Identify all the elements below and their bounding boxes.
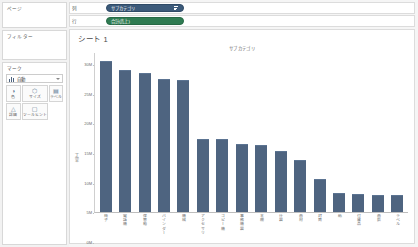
- x-label-slot: 画材: [290, 214, 310, 243]
- bar-mark[interactable]: [197, 139, 209, 212]
- bar-slot: [349, 53, 368, 212]
- bar-mark[interactable]: [391, 195, 403, 212]
- left-cards-panel: ページ フィルター マーク 自動 ◑ 色 ⬡ サイズ: [0, 0, 69, 247]
- bar-slot: [193, 53, 212, 212]
- detail-icon: △: [11, 106, 16, 112]
- worksheet-canvas[interactable]: シート 1 サブカテゴリ 売上 30M25M20M15M10M5M0M 椅子電話…: [69, 29, 415, 244]
- x-axis-labels: 椅子電話機保管箱バインダー機械アクセサリコピー機事務機器本棚什器画材封筒紙付属品…: [94, 213, 408, 243]
- pill-subcategory-label: サブカテゴリ: [111, 5, 171, 11]
- x-axis-tick-label[interactable]: 保管箱: [142, 214, 146, 227]
- bar-slot: [232, 53, 251, 212]
- marks-button-tooltip-label: ツールヒント: [23, 113, 47, 117]
- bar-slot: [388, 53, 407, 212]
- x-axis-tick-label[interactable]: 封筒: [317, 214, 321, 222]
- rows-shelf[interactable]: 行 合計(売上): [69, 15, 415, 27]
- x-axis-tick-label[interactable]: 紙: [337, 214, 341, 218]
- bar-mark[interactable]: [139, 73, 151, 212]
- marks-button-detail-label: 詳細: [9, 113, 17, 117]
- marks-button-tooltip[interactable]: ▢ ツールヒント: [22, 103, 48, 120]
- columns-shelf-label: 列: [72, 5, 106, 11]
- worksheet-area: 列 サブカテゴリ 行 合計(売上) シート 1 サブカテゴリ 売上 30M25M…: [69, 0, 418, 247]
- bar-mark[interactable]: [216, 139, 228, 212]
- bar-mark[interactable]: [333, 193, 345, 212]
- size-icon: ⬡: [32, 88, 37, 94]
- x-label-slot: 機械: [173, 214, 193, 243]
- x-axis-tick-label[interactable]: 什器: [278, 214, 282, 222]
- x-label-slot: 什器: [271, 214, 291, 243]
- marks-button-color-label: 色: [11, 95, 15, 99]
- bar-mark[interactable]: [177, 80, 189, 212]
- x-axis-tick-label[interactable]: ラベル: [395, 214, 399, 227]
- columns-shelf[interactable]: 列 サブカテゴリ: [69, 2, 415, 14]
- tooltip-icon: ▢: [32, 106, 38, 112]
- bar-mark[interactable]: [255, 145, 267, 212]
- x-label-slot: 椅子: [95, 214, 115, 243]
- bar-mark[interactable]: [158, 79, 170, 212]
- pages-card-title: ページ: [3, 3, 66, 13]
- y-axis-tick: 20M: [84, 122, 92, 126]
- x-label-slot: ラベル: [388, 214, 408, 243]
- marks-button-detail[interactable]: △ 詳細: [6, 103, 21, 120]
- filters-card[interactable]: フィルター: [2, 30, 67, 60]
- x-axis-tick-label[interactable]: 事務機器: [239, 214, 243, 231]
- bar-slot: [329, 53, 348, 212]
- bar-mark[interactable]: [294, 160, 306, 212]
- pill-sum-sales[interactable]: 合計(売上): [106, 17, 184, 25]
- column-field-header: サブカテゴリ: [70, 46, 414, 53]
- x-axis-tick-label[interactable]: 機械: [181, 214, 185, 222]
- x-label-slot: 画鋲: [368, 214, 388, 243]
- bar-slot: [290, 53, 309, 212]
- x-axis-tick-label[interactable]: 椅子: [103, 214, 107, 222]
- x-label-slot: バインダー: [154, 214, 174, 243]
- marks-button-size-label: サイズ: [29, 95, 41, 99]
- marks-button-label-label: ラベル: [50, 95, 62, 99]
- x-axis-tick-label[interactable]: 本棚: [259, 214, 263, 222]
- bar-mark[interactable]: [236, 144, 248, 212]
- y-axis-tick: 30M: [84, 63, 92, 67]
- x-axis-tick-label[interactable]: 画鋲: [376, 214, 380, 222]
- mark-type-value: 自動: [17, 76, 54, 82]
- x-axis-tick-label[interactable]: 電話機: [122, 214, 126, 227]
- bar-slot: [96, 53, 115, 212]
- mark-type-dropdown[interactable]: 自動: [6, 74, 63, 83]
- pages-card[interactable]: ページ: [2, 2, 67, 28]
- bar-slot: [174, 53, 193, 212]
- y-axis-tick: 25M: [84, 93, 92, 97]
- x-axis-tick-label[interactable]: コピー機: [220, 214, 224, 231]
- sort-descending-icon[interactable]: [174, 6, 179, 11]
- x-label-slot: 封筒: [310, 214, 330, 243]
- y-axis-ticks: 30M25M20M15M10M5M0M: [81, 53, 94, 243]
- y-axis-title: 売上: [74, 53, 81, 243]
- marks-button-color[interactable]: ◑ 色: [6, 85, 21, 102]
- x-label-slot: アクセサリ: [193, 214, 213, 243]
- bar-mark[interactable]: [100, 61, 112, 212]
- x-label-slot: 付属品: [349, 214, 369, 243]
- bar-mark[interactable]: [352, 194, 364, 212]
- x-label-slot: 紙: [329, 214, 349, 243]
- filters-card-title: フィルター: [3, 31, 66, 41]
- marks-buttons-grid: ◑ 色 ⬡ サイズ ▤ ラベル △ 詳細 ▢ ツールヒント: [3, 85, 66, 123]
- pill-subcategory[interactable]: サブカテゴリ: [106, 4, 184, 12]
- sheet-title: シート 1: [70, 30, 414, 46]
- marks-button-label[interactable]: ▤ ラベル: [49, 85, 64, 102]
- marks-card[interactable]: マーク 自動 ◑ 色 ⬡ サイズ ▤ ラベル: [2, 62, 67, 245]
- x-axis-tick-label[interactable]: バインダー: [161, 214, 165, 235]
- bar-slot: [271, 53, 290, 212]
- rows-shelf-label: 行: [72, 18, 106, 24]
- chevron-down-icon: [56, 78, 60, 80]
- tableau-worksheet-window: ページ フィルター マーク 自動 ◑ 色 ⬡ サイズ: [0, 0, 418, 247]
- bar-slot: [154, 53, 173, 212]
- x-axis-tick-label[interactable]: 付属品: [356, 214, 360, 227]
- y-axis-tick: 0M: [86, 241, 92, 245]
- bar-mark[interactable]: [372, 195, 384, 212]
- bar-mark[interactable]: [314, 179, 326, 212]
- bar-mark[interactable]: [119, 70, 131, 212]
- x-axis-tick-label[interactable]: アクセサリ: [200, 214, 204, 235]
- marks-button-size[interactable]: ⬡ サイズ: [22, 85, 48, 102]
- bar-slot: [115, 53, 134, 212]
- x-axis-tick-label[interactable]: 画材: [298, 214, 302, 222]
- x-label-slot: 本棚: [251, 214, 271, 243]
- plot-wrapper: 売上 30M25M20M15M10M5M0M 椅子電話機保管箱バインダー機械アク…: [70, 53, 414, 243]
- plot-area: 椅子電話機保管箱バインダー機械アクセサリコピー機事務機器本棚什器画材封筒紙付属品…: [94, 53, 408, 243]
- bar-mark[interactable]: [275, 151, 287, 212]
